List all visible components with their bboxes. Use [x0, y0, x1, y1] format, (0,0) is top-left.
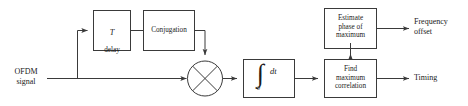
output-label-frequency-offset: Frequency offset [414, 17, 468, 36]
integral-icon: ∫ [257, 61, 264, 87]
block-find-max-correlation-outline [325, 60, 377, 98]
integral-integrand: dt [270, 66, 277, 76]
diagram-connections-layer [0, 0, 468, 106]
block-label-integrator: ∫ dt 0 [243, 59, 295, 97]
input-label-ofdm-signal: OFDM signal [6, 67, 46, 86]
block-conjugation-outline [144, 11, 195, 51]
block-diagram: OFDM signal T delay Conjugation ∫ dt 0 F… [0, 0, 468, 106]
block-delay-outline [94, 11, 131, 51]
integral-lower-limit: 0 [257, 85, 260, 91]
block-estimate-phase-outline [325, 9, 377, 49]
output-label-timing: Timing [414, 73, 464, 83]
